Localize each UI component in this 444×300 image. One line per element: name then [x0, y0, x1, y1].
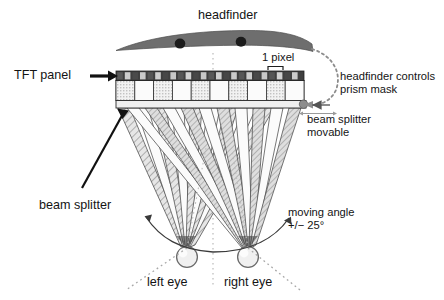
beam-fan-group — [118, 108, 301, 249]
beam-splitter-bar — [116, 100, 308, 108]
headfinder-sensor — [236, 37, 247, 47]
beam-splitter-movable-label-line1: beam splitter — [307, 113, 371, 126]
moving-angle-label-line2: +/− 25° — [288, 219, 324, 232]
tft-panel-label: TFT panel — [14, 68, 71, 83]
tft-panel-arrow — [90, 71, 118, 82]
beam-splitter-movable-label-line2: movable — [307, 126, 349, 139]
one-pixel-label: 1 pixel — [262, 51, 294, 64]
left-eye-label: left eye — [147, 275, 188, 290]
headfinder-controls-label-line2: prism mask — [340, 83, 397, 96]
headfinder-controls-label-line1: headfinder controls — [340, 70, 435, 83]
headfinder-bar — [116, 31, 313, 52]
eyes-group — [177, 247, 259, 268]
prism-mask-row — [116, 81, 304, 101]
beam-splitter-leader — [82, 109, 129, 189]
right-eye-label: right eye — [224, 275, 272, 290]
moving-angle-label-line1: moving angle — [288, 206, 355, 219]
one-pixel-bracket — [268, 67, 283, 71]
headfinder-label: headfinder — [198, 8, 258, 23]
headfinder-sensor — [175, 39, 186, 49]
headfinder-control-arrow — [304, 49, 338, 108]
tft-pixel-strip — [116, 71, 304, 81]
diagram-graphics — [0, 0, 444, 300]
diagram-canvas: headfinder TFT panel 1 pixel headfinder … — [0, 0, 444, 300]
beam-splitter-label: beam splitter — [39, 198, 111, 213]
